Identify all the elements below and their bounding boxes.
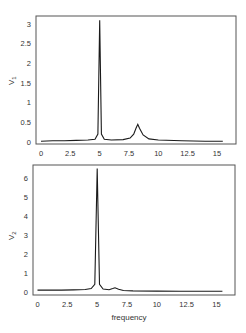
y-tick-label: 5 <box>24 193 28 202</box>
plot-frame-top <box>36 16 236 144</box>
chart-figure: 00.511.522.53 02.557.51012.515 V1 012345… <box>0 0 246 333</box>
x-tick-labels-top: 02.557.51012.515 <box>39 149 221 158</box>
x-tick-label: 2.5 <box>62 300 72 309</box>
x-tick-label: 10 <box>153 300 161 309</box>
y-tick-label: 1.5 <box>21 79 31 88</box>
x-tick-label: 7.5 <box>122 300 132 309</box>
x-tick-label: 2.5 <box>65 149 75 158</box>
x-tick-label: 15 <box>212 300 220 309</box>
x-tick-label: 12.5 <box>180 149 195 158</box>
y-tick-label: 0 <box>27 138 31 147</box>
y-tick-label: 1 <box>24 269 28 278</box>
y-tick-label: 0.5 <box>21 118 31 127</box>
x-axis-label: frequency <box>111 313 146 322</box>
panel-v2: 0123456 02.557.51012.515 V2 frequency <box>7 165 235 322</box>
y-tick-label: 6 <box>24 174 28 183</box>
series-line-v1 <box>41 20 223 141</box>
y-tick-label: 1 <box>27 98 31 107</box>
y-tick-labels-top: 00.511.522.53 <box>21 20 31 147</box>
x-tick-label: 5 <box>98 149 102 158</box>
y-tick-label: 3 <box>24 231 28 240</box>
y-tick-label: 2.5 <box>21 39 31 48</box>
x-tick-label: 0 <box>39 149 43 158</box>
y-axis-label-top: V1 <box>7 76 17 85</box>
x-tick-label: 12.5 <box>179 300 194 309</box>
y-tick-label: 4 <box>24 212 28 221</box>
panel-v1: 00.511.522.53 02.557.51012.515 V1 <box>7 16 236 158</box>
y-tick-label: 0 <box>24 288 28 297</box>
plot-frame-bottom <box>33 165 235 295</box>
series-line-v2 <box>38 169 223 292</box>
x-tick-label: 5 <box>95 300 99 309</box>
x-tick-label: 7.5 <box>124 149 134 158</box>
y-axis-label-bottom: V2 <box>7 231 17 240</box>
y-tick-label: 2 <box>27 59 31 68</box>
x-tick-labels-bottom: 02.557.51012.515 <box>35 300 220 309</box>
y-tick-label: 3 <box>27 20 31 29</box>
y-tick-label: 2 <box>24 250 28 259</box>
x-tick-label: 0 <box>35 300 39 309</box>
y-tick-labels-bottom: 0123456 <box>24 174 28 297</box>
x-tick-label: 15 <box>213 149 221 158</box>
x-tick-label: 10 <box>154 149 162 158</box>
